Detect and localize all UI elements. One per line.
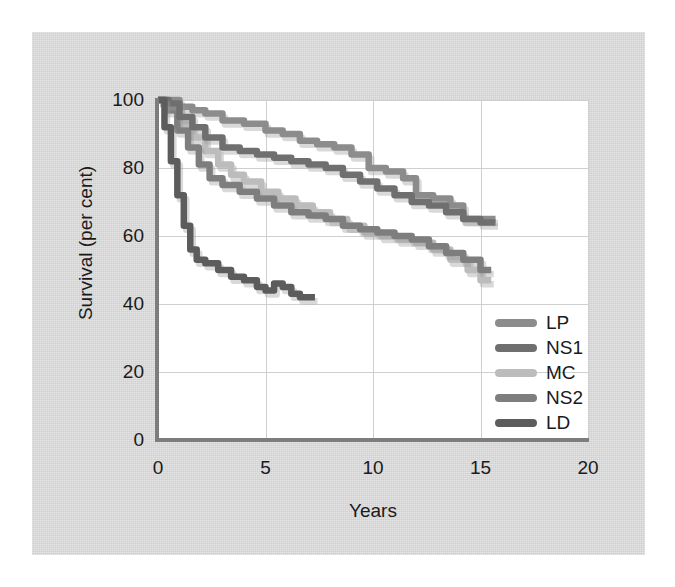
legend-item-label: LD <box>546 413 570 432</box>
y-axis-line <box>155 98 159 442</box>
x-tick-label: 20 <box>558 457 618 479</box>
legend-swatch-icon <box>495 319 537 327</box>
x-tick-label: 10 <box>343 457 403 479</box>
x-tick-label: 0 <box>128 457 188 479</box>
legend-swatch-icon <box>495 394 537 402</box>
legend-item-ld[interactable]: LD <box>495 410 605 435</box>
legend-swatch-icon <box>495 369 537 377</box>
legend-item-label: NS2 <box>546 388 583 407</box>
legend-swatch-icon <box>495 419 537 427</box>
y-tick-label: 0 <box>84 429 144 451</box>
x-tick-label: 5 <box>236 457 296 479</box>
x-axis-title: Years <box>158 500 588 522</box>
legend-item-ns1[interactable]: NS1 <box>495 335 605 360</box>
x-tick-label: 15 <box>451 457 511 479</box>
y-axis-title: Survival (per cent) <box>75 113 97 373</box>
legend-item-label: MC <box>546 363 576 382</box>
legend-swatch-icon <box>495 344 537 352</box>
legend-item-mc[interactable]: MC <box>495 360 605 385</box>
y-tick-label: 100 <box>84 89 144 111</box>
legend-item-lp[interactable]: LP <box>495 310 605 335</box>
legend-item-label: NS1 <box>546 338 583 357</box>
x-axis-line <box>155 438 589 442</box>
figure-root: 02040608010005101520 Survival (per cent)… <box>0 0 675 587</box>
legend-item-ns2[interactable]: NS2 <box>495 385 605 410</box>
legend-item-label: LP <box>546 313 569 332</box>
chart-legend: LPNS1MCNS2LD <box>495 310 605 435</box>
